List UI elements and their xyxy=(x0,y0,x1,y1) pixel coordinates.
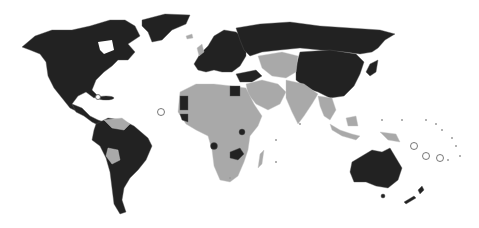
pacific-ring-3 xyxy=(437,155,444,162)
region-egypt xyxy=(230,86,240,96)
region-tasmania xyxy=(381,194,385,198)
pacific-ring-1 xyxy=(411,143,418,150)
region-north-america xyxy=(22,20,140,112)
region-greenland xyxy=(142,14,190,42)
region-new-zealand xyxy=(404,186,424,204)
island-dots xyxy=(229,119,461,179)
region-south-america xyxy=(92,118,152,214)
indonesia xyxy=(330,116,400,142)
region-australia xyxy=(350,148,402,188)
pacific-ring-4 xyxy=(158,109,165,116)
pacific-ring-2 xyxy=(423,153,430,160)
world-map xyxy=(0,0,479,228)
region-central-asia xyxy=(258,52,298,78)
region-japan xyxy=(366,60,378,76)
region-senegal xyxy=(180,114,188,122)
caribbean-ring xyxy=(96,95,101,100)
region-western-sahara xyxy=(180,96,188,110)
region-southeast-asia xyxy=(318,96,336,120)
region-gabon xyxy=(211,143,218,150)
region-africa xyxy=(178,84,262,182)
region-uk-iceland xyxy=(186,34,204,56)
region-uganda xyxy=(239,129,245,135)
region-madagascar xyxy=(258,150,264,168)
region-turkey xyxy=(236,70,262,82)
